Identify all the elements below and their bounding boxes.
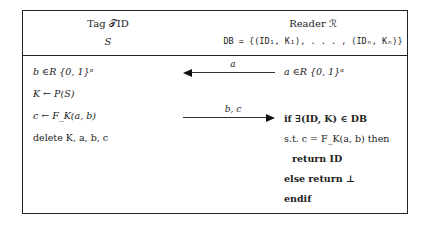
header-divider	[23, 55, 407, 56]
tag-title: Tag 𝒯ID	[23, 18, 193, 30]
protocol-box: Tag 𝒯ID S Reader ℛ DB = {(ID₁, K₁), . . …	[22, 10, 408, 214]
reader-step-3: s.t. c = F_K(a, b) then	[284, 133, 389, 144]
reader-state: DB = {(ID₁, K₁), . . . , (IDₙ, Kₙ)}	[218, 36, 408, 46]
reader-step-2: if ∃(ID, K) ∈ DB	[284, 113, 367, 124]
tag-step-4: delete K, a, b, c	[33, 132, 108, 143]
tag-step-3: c ← F_K(a, b)	[33, 110, 96, 121]
reader-step-1: a ∈R {0, 1}ᵅ	[284, 66, 344, 77]
tag-state: S	[23, 36, 193, 47]
message-a-arrow	[191, 72, 275, 73]
tag-step-1: b ∈R {0, 1}ᵅ	[33, 66, 94, 77]
reader-step-4: return ID	[292, 153, 342, 164]
arrow-right-icon	[266, 114, 275, 122]
tag-step-2: K ← P(S)	[33, 88, 74, 99]
message-bc-arrow	[183, 117, 267, 118]
message-bc-label: b, c	[193, 104, 273, 114]
reader-step-6: endif	[284, 193, 311, 204]
reader-step-5: else return ⊥	[284, 173, 355, 184]
arrow-left-icon	[183, 69, 192, 77]
message-a-label: a	[193, 59, 273, 69]
reader-title: Reader ℛ	[218, 18, 408, 29]
